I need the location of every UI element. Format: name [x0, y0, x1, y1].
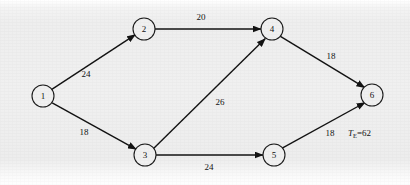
- edge-3-4: 26: [154, 39, 265, 149]
- edge-weight-2-4: 20: [197, 12, 207, 22]
- node-6-label: 6: [370, 90, 375, 100]
- node-4-label: 4: [270, 24, 275, 34]
- diagram-canvas: 24 18 20 26 24: [0, 0, 410, 185]
- node-6[interactable]: 6: [361, 84, 383, 106]
- edge-1-3: 18: [52, 103, 136, 150]
- project-duration-annotation: TE=62: [348, 128, 371, 139]
- edge-weight-1-3: 18: [80, 127, 90, 137]
- node-4[interactable]: 4: [261, 18, 283, 40]
- edge-4-6: 18: [280, 36, 365, 88]
- node-2[interactable]: 2: [133, 18, 155, 40]
- duration-value: 62: [362, 128, 371, 138]
- edge-2-4: 20: [155, 12, 261, 29]
- node-2-label: 2: [142, 24, 147, 34]
- edge-weight-5-6: 18: [326, 128, 336, 138]
- node-1-label: 1: [41, 91, 46, 101]
- node-1[interactable]: 1: [32, 85, 54, 107]
- edge-weight-1-2: 24: [82, 69, 92, 79]
- network-diagram: 24 18 20 26 24: [0, 0, 410, 185]
- edge-line-3-4: [154, 39, 265, 149]
- node-group: 1 2 3 4 5 6: [32, 18, 383, 166]
- project-duration-text: TE=62: [348, 128, 371, 139]
- node-3[interactable]: 3: [134, 144, 156, 166]
- edge-weight-3-5: 24: [205, 162, 215, 172]
- edge-weight-3-4: 26: [216, 97, 226, 107]
- node-5[interactable]: 5: [263, 144, 285, 166]
- edge-weight-4-6: 18: [327, 51, 337, 61]
- node-3-label: 3: [143, 150, 148, 160]
- edge-group: 24 18 20 26 24: [52, 12, 365, 172]
- edge-line-4-6: [280, 36, 365, 88]
- edge-line-5-6: [282, 103, 365, 149]
- edge-3-5: 24: [156, 155, 263, 172]
- edge-1-2: 24: [52, 35, 136, 90]
- node-5-label: 5: [272, 150, 277, 160]
- edge-5-6: 18: [282, 103, 365, 149]
- edge-line-1-3: [52, 103, 136, 150]
- edge-line-1-2: [52, 35, 136, 90]
